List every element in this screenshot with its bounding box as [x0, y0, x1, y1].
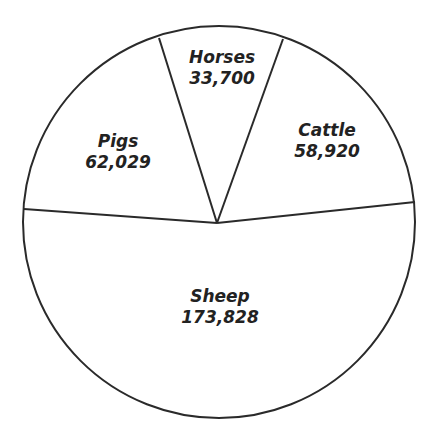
slice-label-horses: Horses 33,700: [189, 47, 255, 89]
slice-name: Sheep: [181, 286, 258, 307]
slice-value: 58,920: [294, 141, 360, 162]
slice-name: Cattle: [294, 120, 360, 141]
slice-label-pigs: Pigs 62,029: [85, 131, 151, 173]
slice-divider-cattle-sheep: [217, 202, 415, 223]
slice-value: 62,029: [85, 152, 151, 173]
slice-name: Pigs: [85, 131, 151, 152]
slice-value: 33,700: [189, 68, 255, 89]
slice-label-sheep: Sheep 173,828: [181, 286, 258, 328]
slice-divider-pigs-sheep: [24, 209, 217, 223]
slice-label-cattle: Cattle 58,920: [294, 120, 360, 162]
slice-name: Horses: [189, 47, 255, 68]
slice-value: 173,828: [181, 307, 258, 328]
